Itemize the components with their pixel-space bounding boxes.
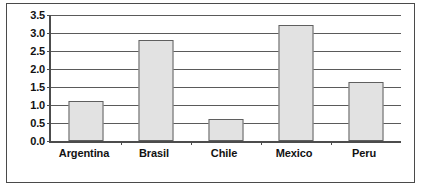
bar-peru[interactable] — [349, 82, 384, 141]
y-tick-label: 3.0 — [11, 27, 45, 39]
x-axis-label-peru: Peru — [329, 147, 399, 159]
bar-slot — [51, 15, 121, 141]
bar-slot — [121, 15, 191, 141]
x-tick-mark — [191, 141, 192, 145]
x-tick-mark — [121, 141, 122, 145]
chart-frame: 0.00.51.01.52.02.53.03.5 ArgentinaBrasil… — [6, 3, 415, 183]
bar-brasil[interactable] — [139, 40, 174, 141]
bar-argentina[interactable] — [69, 101, 104, 141]
y-tick-label: 1.5 — [11, 81, 45, 93]
y-tick-label: 2.5 — [11, 45, 45, 57]
bar-slot — [261, 15, 331, 141]
x-axis-label-chile: Chile — [189, 147, 259, 159]
bar-slot — [191, 15, 261, 141]
y-tick-label: 3.5 — [11, 9, 45, 21]
bar-slot — [331, 15, 401, 141]
y-tick-label: 2.0 — [11, 63, 45, 75]
chart-canvas: 0.00.51.01.52.02.53.03.5 ArgentinaBrasil… — [7, 4, 414, 182]
y-tick-label: 1.0 — [11, 99, 45, 111]
x-axis-label-argentina: Argentina — [49, 147, 119, 159]
y-axis: 0.00.51.01.52.02.53.03.5 — [7, 15, 45, 143]
x-tick-mark — [261, 141, 262, 145]
y-tick-label: 0.5 — [11, 117, 45, 129]
x-axis-label-mexico: Mexico — [259, 147, 329, 159]
x-axis-label-brasil: Brasil — [119, 147, 189, 159]
y-tick-label: 0.0 — [11, 135, 45, 147]
x-tick-mark — [331, 141, 332, 145]
bar-chile[interactable] — [209, 119, 244, 141]
x-axis: ArgentinaBrasilChileMexicoPeru — [49, 147, 401, 167]
plot-area — [49, 15, 401, 143]
bar-mexico[interactable] — [279, 25, 314, 141]
